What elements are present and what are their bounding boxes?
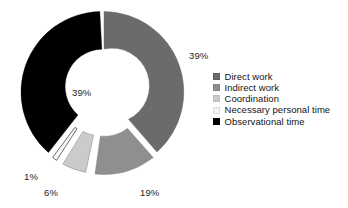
legend-label-indirect-work: Indirect work [225,83,280,93]
slice-label-coordination: 6% [44,188,58,198]
legend-swatch-coordination [213,95,220,102]
legend-label-coordination: Coordination [225,94,279,104]
pie-slice-observational-time[interactable] [21,12,102,153]
chart-legend: Direct work Indirect work Coordination N… [213,71,348,127]
legend-item-direct-work[interactable]: Direct work [213,71,348,82]
legend-label-necessary-personal-time: Necessary personal time [225,105,331,115]
legend-item-indirect-work[interactable]: Indirect work [213,82,348,93]
legend-label-direct-work: Direct work [225,72,273,82]
legend-item-observational-time[interactable]: Observational time [213,116,348,127]
slice-label-observational-time: 39% [72,88,91,98]
slice-label-necessary-personal-time: 1% [24,172,38,182]
legend-item-necessary-personal-time[interactable]: Necessary personal time [213,105,348,116]
donut-chart: 39% 19% 6% 1% 39% Direct work Indirect w… [0,0,348,208]
legend-swatch-necessary-personal-time [213,107,220,114]
legend-label-observational-time: Observational time [225,117,305,127]
slice-label-direct-work: 39% [189,51,208,61]
slice-label-indirect-work: 19% [140,188,159,198]
pie-slice-direct-work[interactable] [104,12,184,153]
legend-swatch-indirect-work [213,84,220,91]
legend-item-coordination[interactable]: Coordination [213,93,348,104]
legend-swatch-observational-time [213,118,220,125]
legend-swatch-direct-work [213,73,220,80]
